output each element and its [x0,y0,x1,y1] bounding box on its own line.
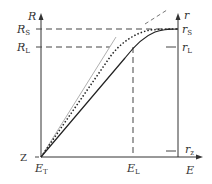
et-label: ET [34,162,48,176]
linear-reference-line [41,37,116,157]
rz-right-label: rz [185,143,194,157]
diagram-canvas: R RS RL Z r rS rL rz ET EL E [0,0,212,184]
rl-right-label: rL [182,41,192,55]
rs-right-label: rS [182,23,192,37]
rl-label: RL [16,41,30,55]
linear-extension-line [145,10,167,24]
right-axis-label: r [184,9,190,22]
el-label: EL [126,162,140,176]
x-axis-label: E [185,164,194,177]
z-label: Z [20,152,27,163]
left-axis-arrow-icon [39,13,44,20]
right-axis-arrow-icon [176,13,181,20]
left-axis-label: R [27,10,36,23]
x-axis-arrow-icon [196,155,203,160]
rs-label: RS [16,23,30,37]
